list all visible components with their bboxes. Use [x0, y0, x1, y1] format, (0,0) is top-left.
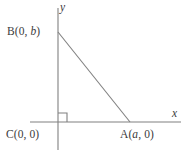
right-angle-marker-icon [58, 113, 67, 122]
y-axis-label: y [60, 2, 65, 14]
vertex-label-C: C(0, 0) [6, 129, 39, 141]
x-axis-label: x [172, 108, 177, 120]
vertex-label-B: B(0, b) [7, 26, 40, 38]
vertex-label-B-suffix: ) [36, 25, 40, 37]
vertex-label-C-prefix: C(0, [6, 128, 30, 140]
vertex-label-A-prefix: A( [120, 128, 132, 140]
vertex-label-A-suffix: , 0) [138, 128, 154, 140]
vertex-label-A: A(a, 0) [120, 129, 154, 141]
vertex-label-B-prefix: B(0, [7, 25, 31, 37]
coordinate-geometry-figure: B(0, b) C(0, 0) A(a, 0) y x [0, 0, 191, 158]
hypotenuse-segment-BA [58, 32, 130, 122]
vertex-label-C-suffix: ) [35, 128, 39, 140]
